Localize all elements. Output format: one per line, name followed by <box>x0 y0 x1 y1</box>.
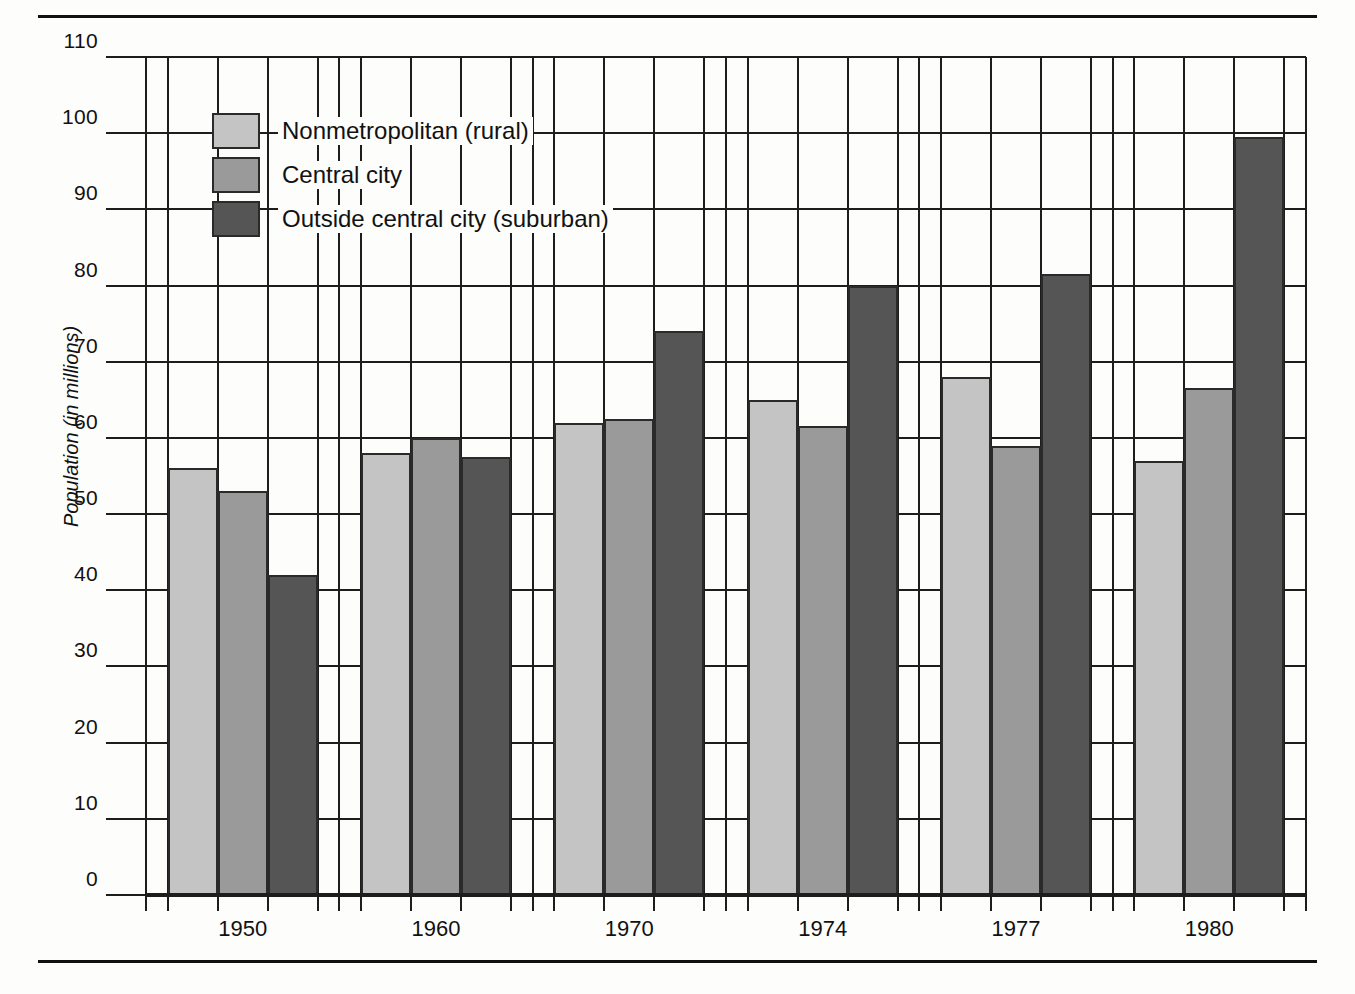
x-axis-category-label: 1970 <box>605 916 654 942</box>
x-axis-tick <box>553 895 555 911</box>
y-axis-tick <box>106 361 146 363</box>
y-axis-tick-label: 90 <box>40 181 98 205</box>
legend-item-suburban[interactable]: Outside central city (suburban) <box>212 200 613 238</box>
y-axis-tick-label: 100 <box>40 105 98 129</box>
bar <box>1134 461 1184 895</box>
x-axis-tick <box>797 895 799 911</box>
x-axis-tick <box>167 895 169 911</box>
y-axis-tick-label: 50 <box>40 486 98 510</box>
y-axis-tick <box>106 208 146 210</box>
x-axis-tick <box>747 895 749 911</box>
x-axis-tick <box>653 895 655 911</box>
x-axis-category-label: 1974 <box>798 916 847 942</box>
x-axis-category-label: 1977 <box>992 916 1041 942</box>
legend-label-suburban: Outside central city (suburban) <box>278 205 613 233</box>
bar <box>1184 388 1234 895</box>
x-axis-tick <box>1040 895 1042 911</box>
x-axis-category-label: 1960 <box>412 916 461 942</box>
y-axis-tick <box>106 56 146 58</box>
legend-swatch-nonmetropolitan <box>212 113 260 149</box>
x-axis-tick <box>703 895 705 911</box>
legend-label-nonmetropolitan: Nonmetropolitan (rural) <box>278 117 533 145</box>
x-axis-tick <box>1133 895 1135 911</box>
bar <box>1234 137 1284 895</box>
figure-container: Population (in millions) 010203040506070… <box>0 0 1355 994</box>
x-axis-tick <box>510 895 512 911</box>
legend-swatch-suburban <box>212 201 260 237</box>
figure-bottom-rule <box>38 960 1317 963</box>
x-axis-tick <box>338 895 340 911</box>
y-axis-tick <box>106 437 146 439</box>
x-axis-category-label: 1980 <box>1185 916 1234 942</box>
y-axis-tick <box>106 818 146 820</box>
x-axis-category-label: 1950 <box>218 916 267 942</box>
y-axis-tick-label: 10 <box>40 791 98 815</box>
y-axis-tick-label: 0 <box>40 867 98 891</box>
x-axis-tick <box>1283 895 1285 911</box>
y-axis-tick-label: 40 <box>40 562 98 586</box>
x-axis-tick <box>603 895 605 911</box>
figure-top-rule <box>38 15 1317 18</box>
x-axis-tick <box>217 895 219 911</box>
y-axis-tick <box>106 742 146 744</box>
x-axis-tick <box>317 895 319 911</box>
legend-label-central_city: Central city <box>278 161 406 189</box>
y-axis-tick <box>106 589 146 591</box>
x-axis-tick <box>940 895 942 911</box>
x-axis-tick <box>990 895 992 911</box>
x-axis-tick <box>1112 895 1114 911</box>
y-axis-tick <box>106 132 146 134</box>
x-axis-tick <box>847 895 849 911</box>
x-axis-tick <box>532 895 534 911</box>
x-axis-tick <box>1305 895 1307 911</box>
x-axis-tick <box>267 895 269 911</box>
y-axis-tick-label: 70 <box>40 334 98 358</box>
y-axis-tick-label: 60 <box>40 410 98 434</box>
x-axis-tick <box>1090 895 1092 911</box>
x-axis-tick <box>897 895 899 911</box>
y-axis-tick-label: 30 <box>40 638 98 662</box>
x-axis-tick <box>460 895 462 911</box>
x-axis-tick <box>918 895 920 911</box>
legend-item-nonmetropolitan[interactable]: Nonmetropolitan (rural) <box>212 112 613 150</box>
x-axis-tick <box>360 895 362 911</box>
y-axis-tick <box>106 665 146 667</box>
x-axis-tick <box>725 895 727 911</box>
y-axis-tick <box>106 894 146 896</box>
chart-legend: Nonmetropolitan (rural)Central cityOutsi… <box>212 112 613 244</box>
y-axis-tick <box>106 513 146 515</box>
x-axis-tick <box>1233 895 1235 911</box>
y-axis-tick-label: 80 <box>40 258 98 282</box>
legend-item-central_city[interactable]: Central city <box>212 156 613 194</box>
y-axis-tick-label: 110 <box>40 29 98 53</box>
y-axis-tick <box>106 285 146 287</box>
x-axis-tick <box>1183 895 1185 911</box>
legend-swatch-central_city <box>212 157 260 193</box>
y-axis-tick-label: 20 <box>40 715 98 739</box>
x-axis-tick <box>145 895 147 911</box>
x-axis-tick <box>410 895 412 911</box>
